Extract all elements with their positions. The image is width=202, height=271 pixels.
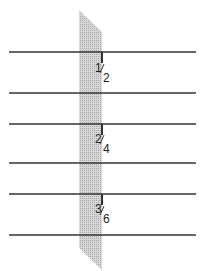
fraction-3-numerator: 3 [95,203,102,215]
fraction-2-numerator: 2 [95,133,102,145]
fraction-1-denominator: 2 [103,72,110,84]
fraction-1-numerator: 1 [95,62,102,74]
fraction-2-denominator: 4 [103,143,110,155]
fraction-3-denominator: 6 [103,213,110,225]
